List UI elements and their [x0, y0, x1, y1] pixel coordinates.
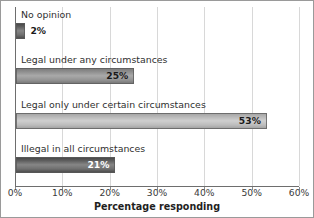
bar-value-label: 53% — [16, 113, 261, 129]
bar-group: Legal under any circumstances25% — [16, 54, 299, 99]
x-tick-label: 40% — [194, 187, 214, 198]
category-label: No opinion — [21, 9, 71, 21]
x-tick-label: 50% — [241, 187, 261, 198]
bar-value-label: 21% — [16, 157, 109, 173]
bar-row: 2% — [16, 23, 299, 39]
plot-area: No opinion2%Legal under any circumstance… — [15, 7, 299, 186]
bar-group: No opinion2% — [16, 9, 299, 54]
x-tick-label: 60% — [289, 187, 309, 198]
gridline — [299, 7, 300, 186]
category-label: Legal under any circumstances — [21, 54, 167, 66]
bar[interactable] — [16, 23, 25, 39]
x-tick-label: 0% — [8, 187, 23, 198]
bar-group: Legal only under certain circumstances53… — [16, 99, 299, 144]
bar-value-label: 2% — [30, 23, 46, 39]
bar-value-label: 25% — [16, 68, 128, 84]
x-axis-title: Percentage responding — [1, 201, 313, 212]
x-tick-label: 20% — [99, 187, 119, 198]
bar-chart-figure: No opinion2%Legal under any circumstance… — [0, 0, 314, 218]
bar-row: 25% — [16, 68, 299, 84]
x-tick-label: 30% — [147, 187, 167, 198]
bar-row: 21% — [16, 157, 299, 173]
category-label: Legal only under certain circumstances — [21, 99, 206, 111]
bar-group: Illegal in all circumstances21% — [16, 143, 299, 188]
x-tick-label: 10% — [52, 187, 72, 198]
category-label: Illegal in all circumstances — [21, 143, 145, 155]
bar-row: 53% — [16, 113, 299, 129]
